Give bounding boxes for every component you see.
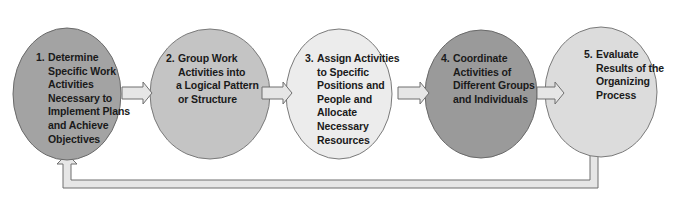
step-2-label: 2. Group WorkActivities intoa Logical Pa… [166, 52, 259, 106]
step-1-label: 1. DetermineSpecific WorkActivitiesNeces… [36, 51, 130, 146]
step-text: EvaluateResults of theOrganizingProcess [596, 48, 664, 102]
step-text: Assign Activitiesto SpecificPositions an… [317, 52, 400, 147]
step-number: 5. [584, 48, 593, 62]
step-number: 2. [166, 52, 175, 66]
step-4-label: 4. CoordinateActivities ofDifferent Grou… [441, 52, 535, 106]
step-5-label: 5. EvaluateResults of theOrganizingProce… [584, 48, 664, 102]
step-number: 1. [36, 51, 45, 65]
arrow-3-to-4 [398, 82, 429, 104]
step-number: 4. [441, 52, 450, 66]
step-text: CoordinateActivities ofDifferent Groupsa… [453, 52, 535, 106]
step-text: Group WorkActivities intoa Logical Patte… [178, 52, 259, 106]
step-number: 3. [305, 52, 314, 66]
step-text: DetermineSpecific WorkActivitiesNecessar… [48, 51, 130, 146]
step-3-label: 3. Assign Activitiesto SpecificPositions… [305, 52, 400, 147]
